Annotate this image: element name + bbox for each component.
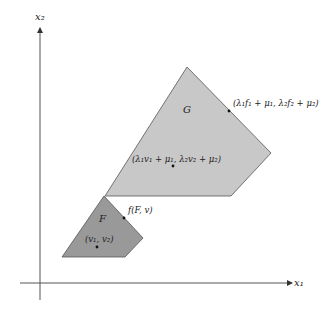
region-g-label: G <box>183 105 191 115</box>
region-f-label: F <box>99 214 106 224</box>
x-axis-label: x₁ <box>294 278 304 288</box>
f-boundary-point-label: f(F, v) <box>128 206 153 215</box>
g-interior-point-label: (λ₁v₁ + μ₁, λ₂v₂ + μ₂) <box>132 155 221 164</box>
region-g <box>105 67 271 196</box>
f-interior-point-label: (v₁, v₂) <box>85 235 113 244</box>
point-f-interior <box>96 246 99 249</box>
point-g-boundary <box>228 110 231 113</box>
point-g-interior <box>172 165 175 168</box>
point-f-boundary <box>123 217 126 220</box>
g-boundary-point-label: (λ₁f₁ + μ₁, λ₂f₂ + μ₂) <box>233 99 319 108</box>
y-axis-label: x₂ <box>35 12 45 22</box>
